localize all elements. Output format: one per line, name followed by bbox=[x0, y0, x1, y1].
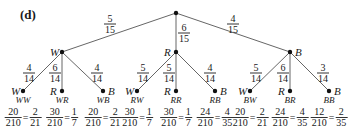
joint-prob-rb: 24210=435 bbox=[197, 107, 234, 128]
leaf-node-bw bbox=[248, 89, 252, 93]
denominator: 14 bbox=[204, 73, 216, 84]
node-label-w: W bbox=[50, 46, 59, 58]
joint-prob-bb: 12210=235 bbox=[311, 107, 348, 128]
edge-root-w bbox=[62, 13, 176, 52]
numerator: 2 bbox=[32, 107, 39, 117]
joint-fraction: 12210 bbox=[311, 107, 328, 128]
equals-sign: = bbox=[329, 112, 335, 123]
numerator: 2 bbox=[338, 107, 345, 117]
simplified-fraction: 235 bbox=[335, 107, 347, 128]
numerator: 20 bbox=[7, 107, 19, 117]
equals-sign: = bbox=[23, 112, 29, 123]
numerator: 1 bbox=[185, 107, 192, 117]
numerator: 6 bbox=[181, 23, 188, 33]
numerator: 2 bbox=[259, 107, 266, 117]
leaf-label-rb: B bbox=[220, 85, 227, 97]
simplified-fraction: 221 bbox=[29, 107, 41, 128]
node-label-b: B bbox=[295, 46, 302, 58]
leaf-node-wr bbox=[60, 89, 64, 93]
equals-sign: = bbox=[103, 112, 109, 123]
joint-fraction: 30210 bbox=[160, 107, 177, 128]
leaf-node-ww bbox=[21, 89, 25, 93]
denominator: 14 bbox=[49, 73, 61, 84]
equals-sign: = bbox=[178, 112, 184, 123]
denominator: 7 bbox=[185, 117, 192, 128]
node-b bbox=[288, 50, 292, 54]
numerator: 4 bbox=[299, 107, 306, 117]
leaf-prob-br: 614 bbox=[277, 63, 289, 84]
equals-sign: = bbox=[290, 112, 296, 123]
denominator: 15 bbox=[178, 33, 190, 44]
joint-prob-br: 24210=435 bbox=[272, 107, 309, 128]
equals-sign: = bbox=[215, 112, 221, 123]
node-label-r: R bbox=[164, 46, 171, 58]
branch-prob-r: 615 bbox=[178, 23, 190, 44]
joint-fraction: 24210 bbox=[197, 107, 214, 128]
numerator: 4 bbox=[207, 63, 214, 73]
leaf-prob-rw: 514 bbox=[137, 63, 149, 84]
leaf-node-rw bbox=[135, 89, 139, 93]
node-r bbox=[174, 50, 178, 54]
numerator: 30 bbox=[163, 107, 175, 117]
joint-prob-wb: 20210=221 bbox=[85, 107, 122, 128]
outcome-wb: WB bbox=[97, 95, 110, 105]
joint-fraction: 24210 bbox=[272, 107, 289, 128]
denominator: 14 bbox=[250, 73, 262, 84]
leaf-prob-bw: 514 bbox=[250, 63, 262, 84]
simplified-fraction: 17 bbox=[185, 107, 192, 128]
denominator: 210 bbox=[121, 117, 138, 128]
denominator: 21 bbox=[256, 117, 268, 128]
leaf-node-rb bbox=[213, 89, 217, 93]
numerator: 6 bbox=[52, 63, 59, 73]
numerator: 4 bbox=[224, 107, 231, 117]
denominator: 14 bbox=[91, 73, 103, 84]
denominator: 14 bbox=[317, 73, 329, 84]
numerator: 2 bbox=[112, 107, 119, 117]
denominator: 210 bbox=[160, 117, 177, 128]
numerator: 5 bbox=[140, 63, 147, 73]
equals-sign: = bbox=[64, 112, 70, 123]
numerator: 4 bbox=[94, 63, 101, 73]
numerator: 20 bbox=[87, 107, 99, 117]
denominator: 210 bbox=[197, 117, 214, 128]
numerator: 5 bbox=[253, 63, 260, 73]
root-node bbox=[174, 11, 178, 15]
denominator: 14 bbox=[277, 73, 289, 84]
numerator: 20 bbox=[234, 107, 246, 117]
outcome-bw: BW bbox=[244, 95, 257, 105]
simplified-fraction: 435 bbox=[296, 107, 308, 128]
panel-label: (d) bbox=[20, 7, 36, 23]
denominator: 35 bbox=[335, 117, 347, 128]
equals-sign: = bbox=[139, 112, 145, 123]
outcome-rb: RB bbox=[210, 95, 221, 105]
joint-prob-bw: 20210=221 bbox=[232, 107, 269, 128]
denominator: 21 bbox=[29, 117, 41, 128]
probability-tree-diagram: (d) 515W615R415B414WWW20210=221614RWR302… bbox=[0, 0, 352, 132]
leaf-prob-rr: 514 bbox=[163, 63, 175, 84]
numerator: 4 bbox=[230, 14, 237, 24]
denominator: 210 bbox=[232, 117, 249, 128]
leaf-node-br bbox=[288, 89, 292, 93]
leaf-node-wb bbox=[101, 89, 105, 93]
leaf-label-bb: B bbox=[334, 85, 341, 97]
joint-fraction: 30210 bbox=[121, 107, 138, 128]
numerator: 6 bbox=[280, 63, 287, 73]
leaf-prob-wb: 414 bbox=[91, 63, 103, 84]
numerator: 3 bbox=[320, 63, 327, 73]
numerator: 12 bbox=[313, 107, 325, 117]
denominator: 210 bbox=[46, 117, 63, 128]
joint-prob-wr: 30210=17 bbox=[46, 107, 78, 128]
joint-fraction: 20210 bbox=[232, 107, 249, 128]
simplified-fraction: 221 bbox=[109, 107, 121, 128]
denominator: 210 bbox=[311, 117, 328, 128]
leaf-node-bb bbox=[327, 89, 331, 93]
joint-prob-rw: 30210=17 bbox=[121, 107, 153, 128]
denominator: 21 bbox=[109, 117, 121, 128]
denominator: 35 bbox=[296, 117, 308, 128]
numerator: 30 bbox=[49, 107, 61, 117]
simplified-fraction: 17 bbox=[71, 107, 78, 128]
leaf-prob-wr: 614 bbox=[49, 63, 61, 84]
simplified-fraction: 17 bbox=[146, 107, 153, 128]
leaf-prob-ww: 414 bbox=[23, 63, 35, 84]
numerator: 24 bbox=[274, 107, 286, 117]
